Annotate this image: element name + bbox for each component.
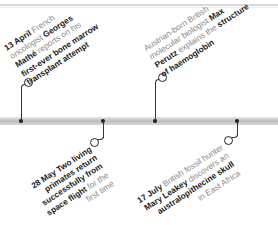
event-label: 17 July British fossil hunterMary Leakey… <box>136 142 243 228</box>
event-label: 13 April Frenchoncologist GeorgesMathé r… <box>2 0 105 87</box>
connector-hook <box>232 132 238 138</box>
event-label: Austrian-born Britishmolecular biologist… <box>142 0 257 79</box>
event-label: 28 May Two livingprimates returnsuccessf… <box>28 144 116 226</box>
connector-hook <box>98 134 104 140</box>
event-marker-icon <box>90 138 99 147</box>
event-marker-icon <box>224 136 233 145</box>
connector-line <box>21 88 22 121</box>
connector-line <box>155 83 156 121</box>
